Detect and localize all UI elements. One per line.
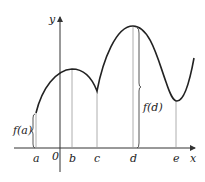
brace-f-d (137, 28, 141, 148)
function-graph: y x 0 a b c d e f(a) f(d) (0, 0, 205, 182)
y-axis-label: y (48, 13, 56, 26)
f-a-label: f(a) (12, 124, 32, 137)
point-b-label: b (69, 152, 76, 165)
point-e-label: e (173, 152, 180, 165)
point-c-label: c (94, 152, 100, 165)
point-a-label: a (33, 152, 40, 165)
graph-svg: y x 0 a b c d e f(a) f(d) (0, 0, 205, 182)
f-d-label: f(d) (142, 101, 163, 114)
origin-label: 0 (52, 150, 59, 163)
x-axis-label: x (190, 152, 197, 165)
point-d-label: d (130, 152, 137, 165)
